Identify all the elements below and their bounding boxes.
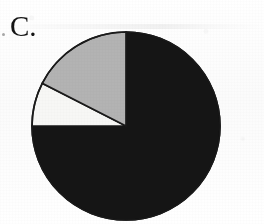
figure-panel: C. [0,0,264,224]
pie-chart [0,0,264,224]
